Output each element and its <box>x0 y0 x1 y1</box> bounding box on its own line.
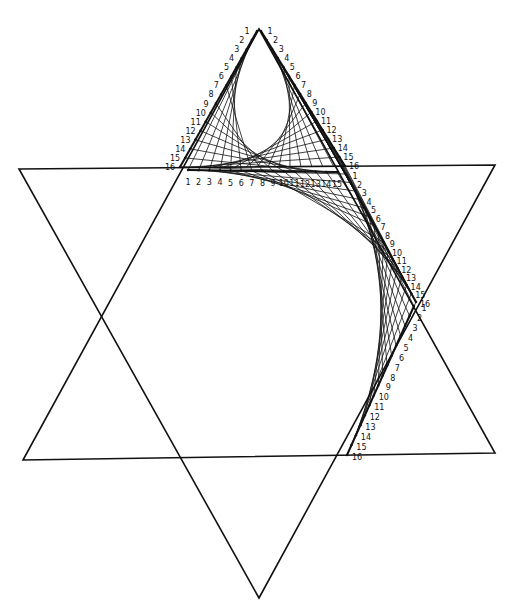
nail-point <box>410 292 412 294</box>
nail-point <box>210 111 212 113</box>
point-label: 15 <box>343 153 353 162</box>
nail-point <box>230 75 232 77</box>
point-label: 8 <box>307 90 312 99</box>
point-label: 10 <box>279 179 289 188</box>
string-lines <box>180 31 416 455</box>
point-label: 15 <box>356 443 366 452</box>
nail-point <box>189 148 191 150</box>
nail-point <box>240 170 242 172</box>
nail-point <box>390 354 392 356</box>
point-label: 5 <box>290 63 295 72</box>
point-label: 5 <box>404 344 409 353</box>
nail-point <box>373 394 375 396</box>
nail-point <box>386 364 388 366</box>
point-label: 5 <box>228 179 233 188</box>
nail-point <box>346 454 348 456</box>
point-label: 13 <box>311 180 321 189</box>
nail-point <box>405 284 407 286</box>
nail-point <box>293 170 295 172</box>
string-art-diagram: 1234567891011121314151612345678910111213… <box>0 0 515 613</box>
star-outline <box>19 29 495 598</box>
point-label: 2 <box>196 178 201 187</box>
nail-point <box>304 170 306 172</box>
nail-point <box>363 207 365 209</box>
point-label: 7 <box>301 81 306 90</box>
point-label: 9 <box>203 100 208 109</box>
point-label: 7 <box>249 179 254 188</box>
nail-point <box>316 120 318 122</box>
point-label: 6 <box>219 72 224 81</box>
nail-point <box>194 139 196 141</box>
point-label: 1 <box>185 178 190 187</box>
point-label: 2 <box>273 36 278 45</box>
nail-point <box>325 171 327 173</box>
point-label: 12 <box>370 413 380 422</box>
nail-point <box>382 241 384 243</box>
nail-point <box>364 414 366 416</box>
nail-point <box>220 93 222 95</box>
point-label: 1 <box>267 27 272 36</box>
nail-point <box>208 169 210 171</box>
nail-point <box>377 233 379 235</box>
point-label: 13 <box>365 423 375 432</box>
nail-point <box>327 138 329 140</box>
nail-point <box>240 57 242 59</box>
nail-point <box>404 325 406 327</box>
nail-point <box>413 305 415 307</box>
nail-point <box>401 275 403 277</box>
nail-point <box>355 434 357 436</box>
point-label: 3 <box>234 45 239 54</box>
point-label: 10 <box>196 109 206 118</box>
point-label: 8 <box>390 374 395 383</box>
nail-point <box>261 170 263 172</box>
point-label: 6 <box>239 179 244 188</box>
star-triangle-up <box>23 29 495 460</box>
point-label: 12 <box>327 126 337 135</box>
nail-point <box>219 169 221 171</box>
nail-point <box>415 301 417 303</box>
point-label: 11 <box>289 179 299 188</box>
point-label: 14 <box>361 433 371 442</box>
nail-point <box>368 404 370 406</box>
point-label: 15 <box>170 154 180 163</box>
nail-point <box>387 250 389 252</box>
point-label: 6 <box>295 72 300 81</box>
nail-point <box>408 315 410 317</box>
point-label: 10 <box>379 393 389 402</box>
nail-point <box>215 102 217 104</box>
nail-point <box>272 170 274 172</box>
star-triangle-down <box>19 165 495 598</box>
point-label: 4 <box>408 334 413 343</box>
point-label: 4 <box>229 54 234 63</box>
nail-point <box>225 84 227 86</box>
nail-point <box>373 224 375 226</box>
nail-point <box>179 166 181 168</box>
nail-point <box>204 120 206 122</box>
point-label: 3 <box>279 45 284 54</box>
nail-point <box>260 30 262 32</box>
nail-point <box>333 147 335 149</box>
point-label: 8 <box>209 90 214 99</box>
nail-point <box>349 181 351 183</box>
nail-point <box>368 215 370 217</box>
nail-point <box>271 48 273 50</box>
point-label: 2 <box>239 36 244 45</box>
point-label: 11 <box>191 118 201 127</box>
nail-point <box>344 165 346 167</box>
point-label: 15 <box>332 180 342 189</box>
nail-point <box>293 84 295 86</box>
point-label: 7 <box>395 364 400 373</box>
nail-point <box>251 170 253 172</box>
point-label: 4 <box>284 54 289 63</box>
point-label: 9 <box>271 179 276 188</box>
nail-point <box>251 39 253 41</box>
point-label: 9 <box>386 383 391 392</box>
nail-point <box>310 111 312 113</box>
point-label: 3 <box>207 178 212 187</box>
point-label: 4 <box>217 178 222 187</box>
nail-point <box>229 169 231 171</box>
nail-point <box>359 198 361 200</box>
point-label: 13 <box>180 136 190 145</box>
string-line <box>246 112 311 167</box>
nail-point <box>277 57 279 59</box>
